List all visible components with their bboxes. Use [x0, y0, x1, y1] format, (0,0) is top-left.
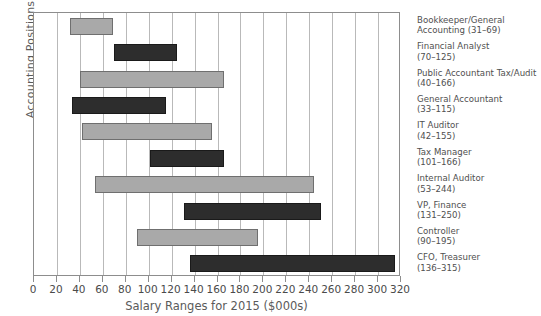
bar-general-accountant: [72, 97, 166, 114]
tick-label-100: 100: [138, 283, 158, 295]
bars-layer: [34, 13, 399, 275]
tick-label-140: 140: [184, 283, 204, 295]
tick-mark-160: [217, 276, 218, 282]
x-axis-title: Salary Ranges for 2015 ($000s): [33, 299, 400, 313]
x-axis-tick-labels: 0204060801001201401601802002202402602803…: [33, 283, 400, 297]
tick-label-220: 220: [275, 283, 295, 295]
bar-bookkeeper-general-accounting: [70, 18, 114, 35]
tick-mark-60: [102, 276, 103, 282]
category-label-controller: Controller(90–195): [417, 226, 541, 247]
bar-controller: [137, 229, 257, 246]
category-name: IT Auditor: [417, 120, 541, 130]
bar-cfo-treasurer: [190, 255, 395, 272]
tick-mark-140: [194, 276, 195, 282]
category-label-bookkeeper-general-accounting: Bookkeeper/GeneralAccounting (31–69): [417, 15, 541, 36]
x-axis-ticks: [33, 276, 400, 282]
tick-mark-80: [125, 276, 126, 282]
tick-mark-20: [56, 276, 57, 282]
tick-mark-100: [148, 276, 149, 282]
tick-mark-260: [331, 276, 332, 282]
tick-mark-300: [377, 276, 378, 282]
bar-it-auditor: [82, 123, 212, 140]
category-label-tax-manager: Tax Manager(101–166): [417, 147, 541, 168]
tick-mark-40: [79, 276, 80, 282]
bar-internal-auditor: [95, 176, 314, 193]
category-name: CFO, Treasurer: [417, 252, 541, 262]
category-range: (70–125): [417, 52, 541, 62]
plot-area: [33, 12, 400, 276]
tick-label-160: 160: [206, 283, 226, 295]
category-name: Tax Manager: [417, 147, 541, 157]
category-range: (33–115): [417, 104, 541, 114]
tick-mark-120: [171, 276, 172, 282]
category-label-financial-analyst: Financial Analyst(70–125): [417, 41, 541, 62]
category-label-cfo-treasurer: CFO, Treasurer(136–315): [417, 252, 541, 273]
category-range: (90–195): [417, 236, 541, 246]
category-name: Controller: [417, 226, 541, 236]
tick-label-0: 0: [30, 283, 37, 295]
tick-mark-180: [239, 276, 240, 282]
tick-mark-280: [354, 276, 355, 282]
category-name: Public Accountant Tax/Audit: [417, 68, 541, 78]
tick-label-40: 40: [72, 283, 85, 295]
tick-mark-0: [33, 276, 34, 282]
tick-label-120: 120: [161, 283, 181, 295]
category-name: Internal Auditor: [417, 173, 541, 183]
bar-vp-finance: [184, 203, 320, 220]
tick-mark-240: [308, 276, 309, 282]
category-label-public-accountant-tax-audit: Public Accountant Tax/Audit(40–166): [417, 68, 541, 89]
tick-label-320: 320: [390, 283, 410, 295]
category-name: Bookkeeper/General: [417, 15, 541, 25]
category-name: VP, Finance: [417, 200, 541, 210]
category-range: (40–166): [417, 78, 541, 88]
category-label-it-auditor: IT Auditor(42–155): [417, 120, 541, 141]
category-range: (101–166): [417, 157, 541, 167]
bar-tax-manager: [150, 150, 225, 167]
category-label-internal-auditor: Internal Auditor(53–244): [417, 173, 541, 194]
tick-mark-320: [400, 276, 401, 282]
bar-financial-analyst: [114, 44, 177, 61]
tick-label-60: 60: [95, 283, 108, 295]
category-range: (136–315): [417, 263, 541, 273]
tick-label-200: 200: [252, 283, 272, 295]
category-range: (53–244): [417, 184, 541, 194]
tick-label-180: 180: [229, 283, 249, 295]
salary-range-chart: Accounting Positions 0204060801001201401…: [0, 0, 541, 316]
tick-label-240: 240: [298, 283, 318, 295]
tick-label-20: 20: [49, 283, 62, 295]
category-name: Financial Analyst: [417, 41, 541, 51]
tick-label-80: 80: [118, 283, 131, 295]
category-range: Accounting (31–69): [417, 25, 541, 35]
tick-label-260: 260: [321, 283, 341, 295]
category-label-general-accountant: General Accountant(33–115): [417, 94, 541, 115]
tick-mark-200: [262, 276, 263, 282]
tick-mark-220: [285, 276, 286, 282]
category-name: General Accountant: [417, 94, 541, 104]
bar-public-accountant-tax-audit: [80, 71, 225, 88]
category-label-vp-finance: VP, Finance(131–250): [417, 200, 541, 221]
tick-label-280: 280: [344, 283, 364, 295]
category-range: (42–155): [417, 131, 541, 141]
category-labels: Bookkeeper/GeneralAccounting (31–69)Fina…: [417, 12, 541, 276]
tick-label-300: 300: [367, 283, 387, 295]
category-range: (131–250): [417, 210, 541, 220]
